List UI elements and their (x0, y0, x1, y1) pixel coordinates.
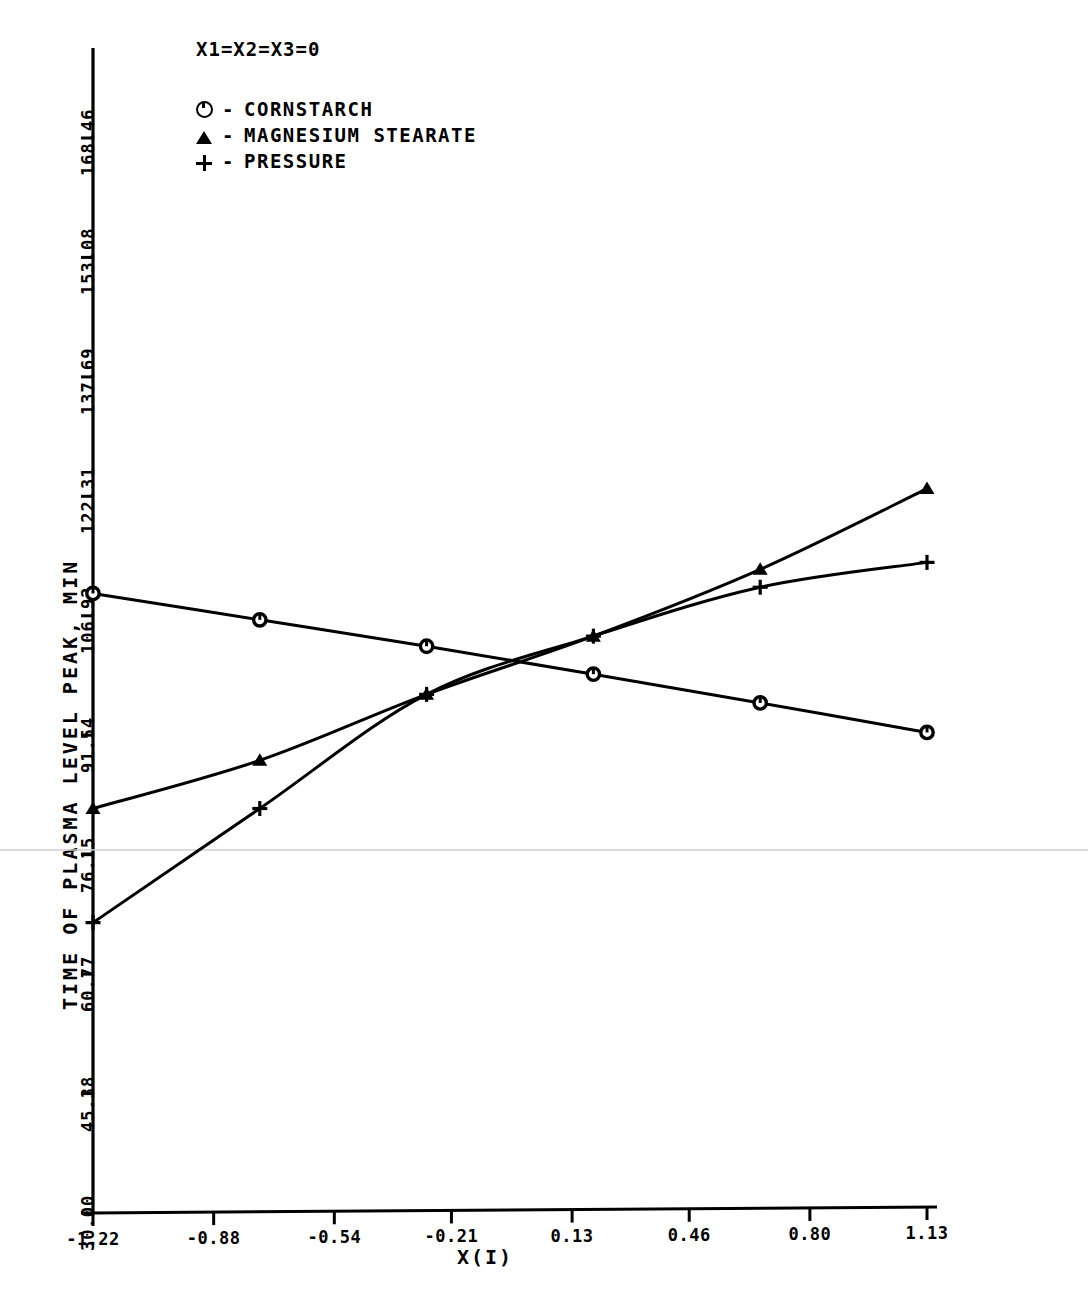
plot-canvas (0, 0, 1088, 1290)
data-series-layer (86, 482, 935, 931)
series-line (93, 562, 927, 922)
series-cornstarch (87, 587, 933, 738)
series-magnesium-stearate (86, 482, 935, 814)
axis-lines (93, 48, 937, 1213)
data-point-triangle (920, 482, 935, 495)
series-line (93, 489, 927, 809)
series-line (93, 593, 927, 732)
tick-marks (81, 138, 927, 1226)
chart-figure: X1=X2=X3=0 - CORNSTARCH - MAGNESIUM STEA… (0, 0, 1088, 1290)
